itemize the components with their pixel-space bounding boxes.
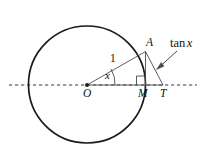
tangent-segment-AT [146, 52, 164, 86]
figure-canvas: A O M T 1 x tanx [0, 0, 213, 154]
annotation-arrow-line [161, 51, 178, 66]
label-point-m: M [138, 88, 148, 100]
label-point-a: A [146, 37, 153, 49]
label-point-t: T [160, 88, 166, 100]
label-point-o: O [83, 88, 91, 100]
right-angle-marker [137, 76, 146, 85]
label-angle-x: x [105, 70, 110, 81]
label-tangent-function: tan [170, 36, 185, 50]
label-tangent-annotation: tanx [170, 37, 192, 50]
label-radius-length: 1 [110, 53, 116, 65]
label-tangent-argument: x [187, 36, 193, 50]
